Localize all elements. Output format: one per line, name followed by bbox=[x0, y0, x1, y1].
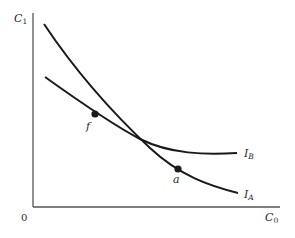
point-a bbox=[174, 165, 181, 172]
x-axis-label-sub: 0 bbox=[273, 216, 278, 225]
curve-i-b-label-sub: B bbox=[247, 152, 254, 161]
y-axis-label: C1 bbox=[14, 12, 27, 26]
x-axis-label: C0 bbox=[265, 211, 278, 225]
curve-i-b bbox=[45, 77, 237, 154]
curve-i-a-label: IA bbox=[243, 188, 254, 202]
point-f-label: f bbox=[85, 120, 92, 133]
curve-i-a bbox=[44, 24, 238, 193]
y-axis-label-sub: 1 bbox=[22, 17, 27, 26]
point-a-label: a bbox=[173, 173, 180, 186]
point-f bbox=[91, 110, 98, 117]
indifference-curve-diagram: f a IB IA C1 C0 0 bbox=[0, 0, 295, 238]
origin-label: 0 bbox=[21, 212, 27, 223]
curve-i-a-label-sub: A bbox=[247, 193, 254, 202]
curve-i-b-label: IB bbox=[243, 147, 254, 161]
